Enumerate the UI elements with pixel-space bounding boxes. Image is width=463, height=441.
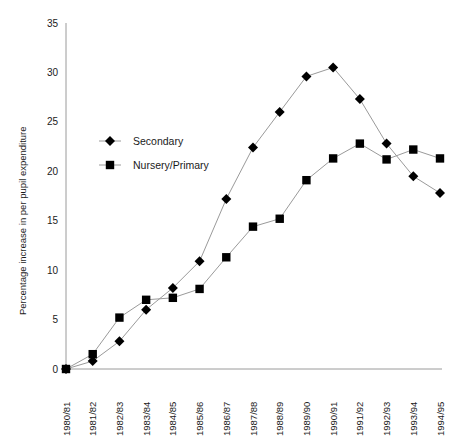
chart-legend: SecondaryNursery/Primary [99,135,210,171]
x-tick-label: 1982/83 [114,402,125,436]
x-tick-label: 1985/86 [194,402,205,436]
x-tick-label: 1989/90 [301,402,312,436]
marker-nursery-primary [276,215,284,223]
marker-nursery-primary [169,294,177,302]
legend-marker-square-icon [106,161,114,169]
series-markers [61,62,445,374]
marker-nursery-primary [115,313,123,321]
x-tick-labels: 1980/811981/821982/831983/841984/851985/… [61,402,446,436]
marker-nursery-primary [356,139,364,147]
legend-marker-diamond-icon [105,136,115,146]
y-axis-title: Percentage increase in per pupil expendi… [17,126,28,315]
marker-nursery-primary [142,296,150,304]
marker-nursery-primary [409,145,417,153]
y-tick-label: 30 [47,67,59,78]
marker-secondary [301,71,311,81]
chart-container: Percentage increase in per pupil expendi… [0,0,463,441]
marker-nursery-primary [222,253,230,261]
marker-nursery-primary [89,350,97,358]
y-tick-label: 20 [47,166,59,177]
series-line-secondary [66,67,440,369]
marker-secondary [221,194,231,204]
x-tick-label: 1987/88 [248,402,259,436]
legend-label: Secondary [133,135,184,147]
y-tick-label: 35 [47,18,59,29]
x-tick-label: 1988/89 [274,402,285,436]
y-tick-label: 5 [52,314,58,325]
x-tick-label: 1986/87 [221,402,232,436]
marker-secondary [248,143,258,153]
marker-nursery-primary [329,154,337,162]
x-tick-label: 1993/94 [408,402,419,436]
x-tick-label: 1994/95 [435,402,446,436]
x-tick-label: 1984/85 [167,402,178,436]
y-tick-label: 0 [52,364,58,375]
series-line-nursery-primary [66,144,440,369]
marker-nursery-primary [302,176,310,184]
marker-nursery-primary [382,155,390,163]
x-tick-label: 1983/84 [141,402,152,436]
y-tick-label: 25 [47,116,59,127]
y-tick-label: 15 [47,215,59,226]
marker-nursery-primary [436,154,444,162]
x-tick-label: 1991/92 [354,402,365,436]
x-tick-label: 1990/91 [328,402,339,436]
marker-secondary [435,188,445,198]
legend-label: Nursery/Primary [133,159,210,171]
y-tick-labels: 05101520253035 [47,18,59,375]
y-axis-title-label: Percentage increase in per pupil expendi… [17,126,28,315]
line-chart: Percentage increase in per pupil expendi… [0,0,463,441]
x-tick-label: 1992/93 [381,402,392,436]
marker-secondary [275,107,285,117]
marker-nursery-primary [62,365,70,373]
y-tick-label: 10 [47,265,59,276]
marker-nursery-primary [195,285,203,293]
x-tick-label: 1981/82 [87,402,98,436]
marker-nursery-primary [249,222,257,230]
x-tick-label: 1980/81 [61,402,72,436]
series-lines [66,67,440,369]
